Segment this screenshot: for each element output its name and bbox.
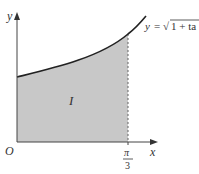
area-under-curve-diagram: y x O I π 3 y = √ 1 + ta [0, 0, 199, 174]
y-axis-label: y [6, 9, 13, 23]
origin-label: O [5, 144, 14, 158]
curve-label-eq: = [154, 20, 160, 32]
x-tick-numerator: π [124, 147, 130, 158]
x-axis-label: x [149, 145, 156, 159]
region-label: I [68, 93, 74, 108]
curve-label-sqrt: √ [163, 20, 170, 32]
x-tick-denominator: 3 [125, 160, 130, 171]
shaded-region [17, 34, 128, 142]
y-axis-arrow-icon [14, 12, 20, 20]
curve-label-y: y [144, 20, 150, 32]
curve-label-radicand: 1 + ta [171, 20, 196, 32]
